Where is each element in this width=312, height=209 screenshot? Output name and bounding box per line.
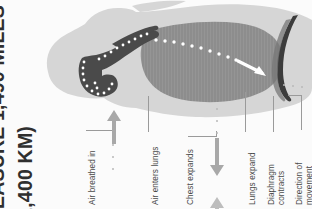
fold-dot <box>283 84 285 86</box>
fold-dot <box>112 144 114 146</box>
callout-diaphragm-contracts-text-1: Diaphragm <box>267 164 276 205</box>
callout-air-enters-lungs: Air enters lungs <box>151 147 160 206</box>
leader-line-lungs-expand <box>245 92 246 132</box>
callout-direction-of-movement-line2: movement <box>305 166 312 205</box>
fold-dot <box>112 168 114 170</box>
callout-chest-expands-text: Chest expands <box>186 149 195 205</box>
leader-line-direction-of-movement <box>301 95 302 130</box>
callout-diaphragm-contracts-line2: contracts <box>277 171 286 205</box>
leader-line-diaphragm-contracts <box>273 96 274 132</box>
callout-direction-of-movement-text-2: movement <box>305 166 312 205</box>
chest-expands-down-arrow <box>209 138 225 178</box>
leader-line-air-enters-lungs <box>148 96 149 132</box>
callout-diaphragm-contracts-text-2: contracts <box>277 171 286 205</box>
callout-diaphragm-contracts-line1: Diaphragm <box>267 164 276 205</box>
fold-dot <box>301 86 303 88</box>
callout-chest-expands: Chest expands <box>186 149 195 205</box>
lung-shape <box>141 22 283 102</box>
fold-dot <box>216 108 218 110</box>
callout-direction-of-movement-line1: Direction of <box>295 162 304 205</box>
fold-dot <box>112 156 114 158</box>
callout-air-enters-lungs-text: Air enters lungs <box>151 147 160 206</box>
leader-line-chest-expands <box>188 136 216 137</box>
fold-dot <box>216 132 218 134</box>
callout-lungs-expand-text: Lungs expand <box>248 152 257 205</box>
leader-line-direction-of-movement-h <box>288 95 302 96</box>
chest-expands-up-arrow <box>209 196 225 209</box>
callout-air-breathed-in: Air breathed in <box>88 150 97 205</box>
callout-lungs-expand: Lungs expand <box>248 152 257 205</box>
callout-direction-of-movement-text-1: Direction of <box>295 162 304 205</box>
fold-dot <box>292 85 294 87</box>
air-breathed-in-arrow <box>105 108 123 144</box>
diagram-page: MEASURE 1,490 MILES (2,400 KM) Air breat… <box>0 0 312 209</box>
callout-air-breathed-in-text: Air breathed in <box>88 150 97 205</box>
fold-dot <box>216 120 218 122</box>
